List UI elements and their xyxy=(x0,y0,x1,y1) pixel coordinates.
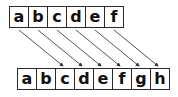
bottom-cell-g: g xyxy=(131,68,151,90)
bottom-array: a b c d e f g h xyxy=(17,68,170,90)
arrow-c-to-e xyxy=(57,30,101,66)
arrow-b-to-d xyxy=(38,30,82,66)
bottom-cell-h: h xyxy=(150,68,170,90)
bottom-cell-d: d xyxy=(74,68,94,90)
bottom-cell-b: b xyxy=(36,68,56,90)
bottom-cell-f: f xyxy=(112,68,132,90)
arrow-d-to-f xyxy=(76,30,120,66)
bottom-cell-c: c xyxy=(55,68,75,90)
arrow-f-to-h xyxy=(114,30,158,66)
arrow-a-to-c xyxy=(19,30,63,66)
bottom-cell-e: e xyxy=(93,68,113,90)
arrow-e-to-g xyxy=(95,30,139,66)
bottom-cell-a: a xyxy=(17,68,37,90)
